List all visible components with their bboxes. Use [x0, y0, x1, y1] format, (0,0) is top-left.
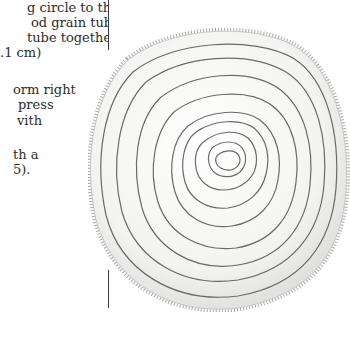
text-line: .1 cm): [0, 45, 41, 60]
text-line: orm right: [13, 82, 76, 97]
text-line: th a: [13, 147, 38, 162]
text-line: vith: [17, 113, 42, 128]
text-line: press: [18, 97, 54, 112]
wood-grain-pillow-photo: [88, 20, 350, 312]
text-line: g circle to the: [27, 0, 108, 15]
text-line: 5).: [13, 162, 30, 177]
